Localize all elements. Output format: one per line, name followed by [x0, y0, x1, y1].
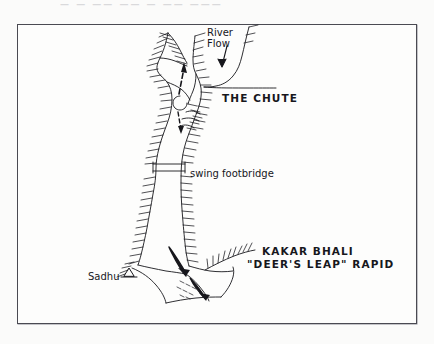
label-kakar-bhali: KAKAR BHALI	[262, 245, 354, 257]
rock-spur-hachures	[207, 243, 252, 268]
scanned-page: — — —— —— — —— ———	[0, 0, 434, 344]
chute-flow-arrow-lower	[178, 112, 184, 134]
rapid-pool-bottom	[166, 297, 221, 303]
rapid-pool-left	[132, 268, 166, 303]
rapid-flow-arrow-2	[190, 278, 210, 300]
chute-narrow-right	[188, 74, 196, 104]
left-bank-hachures	[129, 33, 172, 264]
chute-hachures	[187, 104, 202, 130]
chute-eddy-swirl	[173, 96, 187, 110]
label-river-flow: River Flow	[207, 27, 233, 49]
right-bank-ledge	[204, 87, 276, 88]
river-flow-arrow	[218, 46, 227, 67]
label-deers-leap-rapid: "DEER'S LEAP" RAPID	[247, 258, 394, 270]
chute-flow-arrow	[179, 62, 187, 94]
left-bank-notch	[160, 58, 187, 66]
sadhu-bank-hachures	[117, 262, 134, 277]
swing-footbridge-deck	[153, 164, 185, 171]
label-the-chute: THE CHUTE	[222, 92, 298, 104]
left-bank-outline	[138, 33, 172, 265]
label-sadhu: Sadhu	[88, 271, 120, 282]
chute-narrow-left	[167, 82, 190, 100]
right-bank-hachures	[181, 33, 212, 262]
label-swing-footbridge: swing footbridge	[190, 168, 274, 179]
